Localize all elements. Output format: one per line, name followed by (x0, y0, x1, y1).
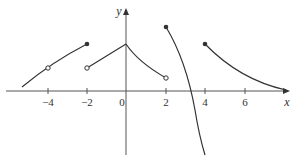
closed-point-marker (203, 42, 208, 47)
tick-label: 6 (242, 96, 248, 108)
tick-label: 4 (202, 96, 208, 108)
curve-piece-2 (87, 44, 126, 68)
tick-label: −4 (42, 96, 54, 108)
tick-label: 0 (119, 96, 125, 108)
y-axis-arrow-icon (123, 8, 129, 15)
x-axis-label: x (283, 95, 290, 109)
y-axis-label: y (115, 4, 122, 18)
open-point-marker (164, 76, 168, 80)
curve-piece-3 (126, 44, 166, 78)
function-graph: −4 −2 0 2 4 6 x y (0, 0, 297, 166)
closed-point-marker (164, 25, 169, 30)
open-point-marker (46, 66, 50, 70)
closed-point-marker (85, 42, 90, 47)
open-point-marker (85, 66, 89, 70)
tick-label: −2 (81, 96, 93, 108)
tick-label: 2 (163, 96, 169, 108)
x-axis-arrow-icon (283, 88, 290, 94)
curve-piece-1 (22, 44, 87, 87)
curve-piece-5 (205, 44, 286, 90)
